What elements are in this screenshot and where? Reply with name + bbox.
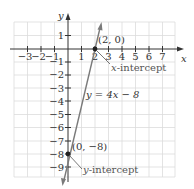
x-intercept-annotation: x-intercept	[111, 62, 166, 73]
y-tick: −4	[49, 96, 64, 107]
y-tick: 1	[58, 30, 64, 41]
y-tick: −1	[49, 56, 64, 67]
x-intercept-coord-label: (2, 0)	[98, 34, 125, 45]
y-tick: −5	[49, 109, 64, 120]
x-tick: 4	[119, 51, 125, 62]
x-tick: 5	[132, 51, 138, 62]
equation-label: y = 4x − 8	[85, 89, 140, 100]
graph-canvas: y x −3 −2 −1 1 2 3 4 5 6 7 1 −1 −2 −3 −4…	[0, 0, 194, 189]
y-tick: −7	[49, 136, 64, 147]
y-axis-label: y	[57, 10, 64, 21]
x-tick: 1	[78, 51, 84, 62]
y-tick: −6	[49, 122, 64, 133]
line-arrow-down-icon	[61, 178, 66, 186]
line-arrow-up-icon	[98, 22, 103, 31]
y-tick: −2	[49, 69, 64, 80]
x-tick: 6	[146, 51, 152, 62]
y-tick: −8	[49, 149, 64, 160]
x-axis-arrow-icon	[177, 47, 184, 52]
x-tick: 7	[159, 51, 165, 62]
y-tick: −9	[49, 162, 64, 173]
y-intercept-coord-label: (0, −8)	[72, 141, 107, 152]
y-axis-arrow-icon	[66, 13, 71, 20]
y-intercept-annotation: y-intercept	[82, 164, 138, 175]
x-axis-label: x	[181, 53, 187, 64]
y-tick: −3	[49, 83, 64, 94]
